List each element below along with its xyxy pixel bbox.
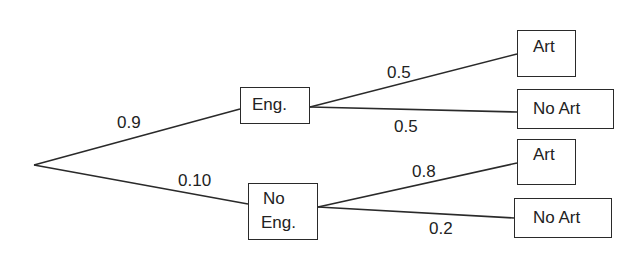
node-noeng-no-art: No Art — [514, 198, 612, 238]
node-eng-label: Eng. — [252, 95, 287, 114]
node-no-eng-label-line1: No — [261, 189, 317, 209]
probability-label-noeng-art: 0.8 — [412, 162, 436, 182]
node-noeng-no-art-label: No Art — [533, 208, 580, 227]
probability-label-noeng-no-art: 0.2 — [429, 219, 453, 239]
node-eng-art: Art — [517, 30, 576, 77]
node-eng-no-art-label: No Art — [533, 99, 580, 118]
node-noeng-art-label: Art — [533, 145, 555, 164]
probability-label-eng-art: 0.5 — [387, 63, 411, 83]
edge-eng-no-art — [310, 107, 517, 112]
node-no-eng-label-line2: Eng. — [261, 213, 317, 233]
probability-label-eng: 0.9 — [117, 113, 141, 133]
node-eng-art-label: Art — [533, 37, 555, 56]
node-no-eng: No Eng. — [248, 183, 318, 240]
edge-eng-art — [310, 54, 517, 107]
probability-label-eng-no-art: 0.5 — [394, 117, 418, 137]
edge-noeng-no-art — [318, 207, 514, 218]
probability-label-no-eng: 0.10 — [178, 171, 211, 191]
node-eng-no-art: No Art — [517, 89, 614, 129]
node-eng: Eng. — [240, 87, 310, 124]
node-noeng-art: Art — [517, 139, 576, 185]
edge-root-no-eng — [34, 165, 248, 204]
